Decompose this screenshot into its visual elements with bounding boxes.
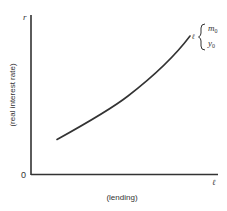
- x-axis-symbol: ℓ: [212, 178, 216, 187]
- lending-curve: [57, 36, 190, 140]
- x-axis-label: (lending): [106, 193, 137, 202]
- y-axis-symbol: r: [23, 12, 27, 22]
- origin-label: 0: [21, 170, 26, 180]
- param-m0: m0: [208, 23, 218, 34]
- lending-diagram: r 0 ℓ (lending) (real interest rate) ℓ m…: [0, 0, 227, 211]
- brace-icon: [199, 24, 206, 50]
- curve-label: ℓ: [191, 33, 195, 41]
- y-axis-label: (real interest rate): [8, 63, 17, 126]
- param-y0: y0: [207, 38, 215, 49]
